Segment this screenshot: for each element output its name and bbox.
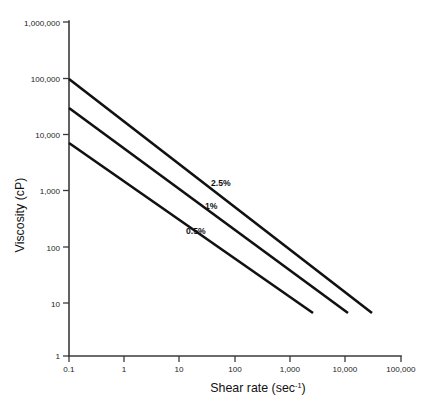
x-axis-tick-labels: 0.1 1 10 100 1,000 10,000 100,000 [63, 365, 416, 374]
data-series-group [69, 79, 372, 313]
y-axis-title: Viscosity (cP) [13, 178, 27, 253]
x-axis-title: Shear rate (sec-1) [210, 381, 305, 396]
y-axis-ticks [63, 22, 69, 356]
y-tick-label-100: 100 [46, 244, 60, 253]
x-axis-ticks [69, 356, 401, 362]
y-tick-label-1000: 1,000 [40, 187, 61, 196]
series-label-2-5-percent: 2.5% [211, 178, 231, 188]
x-tick-label-100: 100 [228, 365, 242, 374]
y-tick-label-1: 1 [55, 352, 60, 361]
x-axis-title-suffix: ) [302, 381, 306, 395]
axes-group [69, 21, 401, 356]
series-line-2-5-percent [69, 79, 372, 313]
y-tick-label-100000: 100,000 [31, 75, 61, 84]
y-axis-tick-labels: 1,000,000 100,000 10,000 1,000 100 10 1 [24, 19, 61, 362]
x-axis-title-exponent: -1 [295, 381, 302, 390]
x-tick-label-100000: 100,000 [386, 365, 416, 374]
figure-container: 1,000,000 100,000 10,000 1,000 100 10 1 … [0, 0, 431, 414]
x-tick-label-0point1: 0.1 [63, 365, 75, 374]
x-tick-label-1: 1 [122, 365, 127, 374]
x-tick-label-10000: 10,000 [333, 365, 358, 374]
x-tick-label-10: 10 [174, 365, 184, 374]
x-tick-label-1000: 1,000 [280, 365, 301, 374]
x-axis-title-main: Shear rate (sec [210, 381, 295, 395]
series-label-0-5-percent: 0.5% [186, 226, 206, 236]
y-tick-label-10000: 10,000 [35, 131, 60, 140]
y-tick-label-1000000: 1,000,000 [24, 19, 61, 28]
series-label-1-percent: 1% [205, 201, 218, 211]
viscosity-vs-shear-rate-chart: 1,000,000 100,000 10,000 1,000 100 10 1 … [0, 0, 431, 414]
y-tick-label-10: 10 [51, 300, 61, 309]
